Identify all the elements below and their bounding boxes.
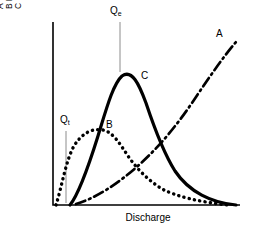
curve-a-transport-rate: [76, 42, 236, 204]
chart-figure: A Transport rate B Frequency of occurenc…: [0, 0, 255, 236]
label-curve-b: B: [106, 119, 113, 130]
label-curve-a: A: [216, 28, 223, 39]
label-qe: Qe: [110, 5, 122, 16]
label-curve-c: C: [141, 70, 148, 81]
curve-c-product: [70, 74, 236, 205]
x-axis-title: Discharge: [53, 212, 243, 223]
label-qt: Qt: [60, 114, 70, 125]
